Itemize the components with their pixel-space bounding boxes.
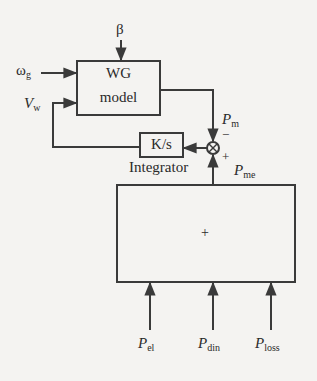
junction-minus-sign: − bbox=[222, 128, 229, 141]
p-din-label: Pdin bbox=[198, 336, 220, 353]
vw-feedback-line bbox=[53, 103, 140, 147]
p-el-label: Pel bbox=[138, 336, 154, 353]
integrator-caption: Integrator bbox=[129, 160, 188, 175]
beta-label: β bbox=[116, 22, 124, 37]
wg-model-line2: model bbox=[77, 90, 160, 105]
v-w-label: Vw bbox=[24, 96, 40, 113]
p-me-label: Pme bbox=[234, 163, 255, 180]
junction-plus-sign: + bbox=[222, 150, 229, 163]
wg-model-line1: WG bbox=[77, 66, 160, 81]
sum-box-plus: + bbox=[200, 226, 210, 240]
integrator-label: K/s bbox=[140, 137, 183, 152]
p-loss-label: Ploss bbox=[255, 336, 280, 353]
omega-g-label: ωg bbox=[16, 63, 31, 80]
diagram-canvas bbox=[0, 0, 317, 381]
